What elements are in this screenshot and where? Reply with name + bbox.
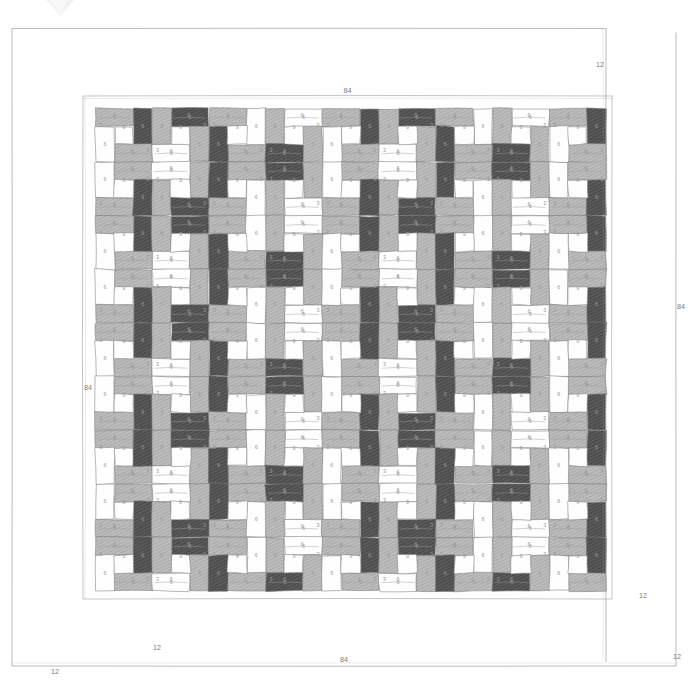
dimension-label-3: 3: [260, 254, 263, 260]
dimension-label-3: 3: [487, 497, 490, 503]
patch-dim-6: 6: [557, 176, 560, 182]
dimension-label-3: 3: [543, 337, 546, 343]
dimension-label-3: 3: [326, 307, 329, 313]
dimension-label-6: 6: [244, 148, 247, 154]
dimension-label-6: 6: [414, 219, 417, 225]
dimension-label-6: 6: [414, 201, 417, 207]
dimension-label-6: 6: [567, 219, 570, 225]
dimension-label-3: 3: [496, 283, 499, 289]
dimension-label-3: 3: [553, 444, 556, 450]
dimension-label-6: 6: [244, 380, 247, 386]
dimension-label-3: 3: [440, 551, 443, 557]
dimension-label-9: 9: [293, 499, 296, 505]
dimension-label-6: 6: [397, 165, 400, 171]
dimension-label-3: 3: [543, 444, 546, 450]
patch-dim-6: 6: [141, 337, 144, 343]
patch-dim-6: 6: [482, 552, 485, 558]
dimension-label-3: 3: [260, 497, 263, 503]
dimension-label-3: 3: [156, 176, 159, 182]
quilt-border-inner-bottom: [83, 599, 612, 600]
patch-dim-6: 6: [387, 123, 390, 129]
dimension-label-6: 6: [567, 201, 570, 207]
dimension-label-3: 3: [99, 229, 102, 235]
patch-dim-6: 6: [141, 552, 144, 558]
patch-dim-6: 6: [538, 355, 541, 361]
dimension-label-3: 3: [373, 497, 376, 503]
patch-dim-6: 6: [217, 248, 220, 254]
dimension-label-6: 6: [226, 541, 229, 547]
patch-dim-6: 6: [595, 552, 598, 558]
dimension-label-6: 6: [131, 380, 134, 386]
dimension-label-6: 6: [226, 112, 229, 118]
dimension-label-3: 3: [553, 229, 556, 235]
dimension-label-6: 6: [453, 326, 456, 332]
dimension-label-9: 9: [349, 177, 352, 183]
dimension-label-6: 6: [170, 487, 173, 493]
patch-dim-6: 6: [387, 409, 390, 415]
dimension-label-6: 6: [584, 362, 587, 368]
dimension-label-3: 3: [373, 361, 376, 367]
dimension-label-3: 3: [543, 522, 546, 528]
patch-dim-6: 6: [103, 498, 106, 504]
dimension-label-6: 6: [170, 576, 173, 582]
dimension-label-6: 6: [131, 273, 134, 279]
dimension-label-6: 6: [453, 112, 456, 118]
dimension-label-3: 3: [496, 147, 499, 153]
dimension-label-3: 3: [600, 497, 603, 503]
dimension-label-6: 6: [340, 112, 343, 118]
dimension-label-3: 3: [487, 283, 490, 289]
patch-dim-6: 6: [557, 141, 560, 147]
dimension-label-3: 3: [600, 176, 603, 182]
patch-dim-6: 6: [311, 570, 314, 576]
dimension-label-3: 3: [496, 497, 499, 503]
dimension-label-9: 9: [293, 285, 296, 291]
dimension-label-3: 3: [543, 415, 546, 421]
dimension-label-3: 3: [326, 415, 329, 421]
dimension-label-6: 6: [584, 469, 587, 475]
patch-dim-6: 6: [557, 284, 560, 290]
dimension-label-3: 3: [326, 444, 329, 450]
dimension-label-3: 3: [430, 200, 433, 206]
dimension-label-6: 6: [357, 362, 360, 368]
patch-dim-6: 6: [538, 462, 541, 468]
patch-dim-6: 6: [330, 462, 333, 468]
dimension-label-6: 6: [471, 576, 474, 582]
patch-dim-6: 6: [425, 248, 428, 254]
dimension-label-6: 6: [567, 308, 570, 314]
dimension-label-3: 3: [373, 176, 376, 182]
patch-dim-6: 6: [255, 409, 258, 415]
dimension-label-3: 3: [553, 307, 556, 313]
patch-dim-6: 6: [444, 462, 447, 468]
quilt-border-inner-left: [82, 96, 83, 599]
patch-dim-6: 6: [255, 194, 258, 200]
dimension-label-3: 3: [487, 176, 490, 182]
patch-dim-6: 6: [274, 301, 277, 307]
patch-dim-6: 6: [274, 516, 277, 522]
dimension-label-9: 9: [519, 338, 522, 344]
patch-dim-6: 6: [444, 570, 447, 576]
dimension-label-6: 6: [340, 219, 343, 225]
dimension-label-9: 9: [179, 445, 182, 451]
dimension-label-9: 9: [406, 285, 409, 291]
dimension-label-9: 9: [236, 445, 239, 451]
dimension-label-6: 6: [244, 165, 247, 171]
dimension-label-9: 9: [519, 392, 522, 398]
dimension-label-3: 3: [213, 337, 216, 343]
patch-dim-6: 6: [595, 123, 598, 129]
patch-dim-6: 6: [368, 123, 371, 129]
dimension-label-6: 6: [357, 487, 360, 493]
dimension-label-3: 3: [316, 307, 319, 313]
patch-dim-6: 6: [425, 176, 428, 182]
dimension-label-9: 9: [576, 499, 579, 505]
dimension-label-3: 3: [553, 522, 556, 528]
dimension-label-3: 3: [203, 522, 206, 528]
dimension-label-6: 6: [397, 380, 400, 386]
patch-dim-6: 6: [274, 552, 277, 558]
dimension-label-6: 6: [567, 523, 570, 529]
patch-dim-6: 6: [595, 516, 598, 522]
patch-dim-6: 6: [217, 176, 220, 182]
patch-dim-6: 6: [425, 391, 428, 397]
dimension-label-3: 3: [260, 147, 263, 153]
patch-dim-6: 6: [538, 176, 541, 182]
dimension-label-6: 6: [528, 112, 531, 118]
